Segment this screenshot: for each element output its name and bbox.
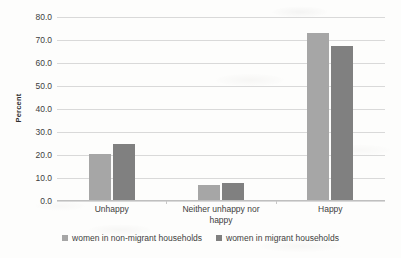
y-axis-tick-label: 40.0 bbox=[8, 104, 52, 114]
x-axis-line bbox=[57, 200, 385, 201]
legend-label: women in non-migrant households bbox=[72, 233, 202, 243]
legend-item[interactable]: women in non-migrant households bbox=[62, 233, 202, 243]
bar bbox=[89, 154, 111, 200]
bar-chart: Percent 0.010.020.030.040.050.060.070.08… bbox=[0, 0, 401, 258]
y-axis-tick-label: 80.0 bbox=[8, 12, 52, 22]
y-axis-tick-label: 70.0 bbox=[8, 35, 52, 45]
category-label: Unhappy bbox=[57, 204, 166, 215]
legend-swatch-icon bbox=[62, 235, 68, 241]
y-axis-tick-label: 20.0 bbox=[8, 150, 52, 160]
category-label: Happy bbox=[276, 204, 385, 215]
bars-group bbox=[57, 17, 385, 201]
y-axis-tick-label: 10.0 bbox=[8, 173, 52, 183]
legend-swatch-icon bbox=[216, 235, 222, 241]
plot-area bbox=[57, 17, 385, 201]
bar bbox=[331, 46, 353, 200]
y-axis-tick-label: 30.0 bbox=[8, 127, 52, 137]
legend-item[interactable]: women in migrant households bbox=[216, 233, 339, 243]
y-axis-tick-label: 60.0 bbox=[8, 58, 52, 68]
y-axis-tick-label: 0.0 bbox=[8, 196, 52, 206]
bar bbox=[113, 144, 135, 200]
legend-label: women in migrant households bbox=[226, 233, 339, 243]
bar bbox=[222, 183, 244, 200]
bar bbox=[198, 185, 220, 200]
bar bbox=[307, 33, 329, 200]
chart-legend: women in non-migrant householdswomen in … bbox=[0, 233, 401, 243]
y-axis-tick-label: 50.0 bbox=[8, 81, 52, 91]
gridline bbox=[57, 201, 385, 202]
category-label: Neither unhappy norhappy bbox=[166, 204, 275, 226]
x-axis-category-labels: UnhappyNeither unhappy norhappyHappy bbox=[57, 204, 385, 230]
